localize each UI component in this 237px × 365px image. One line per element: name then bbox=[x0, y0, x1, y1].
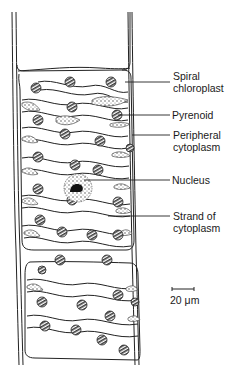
label-line: cytoplasm bbox=[173, 222, 220, 234]
label-line: Strand of bbox=[173, 210, 220, 222]
label-strand-of-cytoplasm: Strand of cytoplasm bbox=[173, 210, 220, 234]
label-line: Pyrenoid bbox=[172, 109, 213, 121]
label-peripheral-cytoplasm: Peripheral cytoplasm bbox=[173, 129, 221, 153]
label-line: Nucleus bbox=[172, 174, 210, 186]
scale-bar-label: 20 μm bbox=[170, 294, 199, 306]
label-pyrenoid: Pyrenoid bbox=[172, 109, 213, 121]
label-nucleus: Nucleus bbox=[172, 174, 210, 186]
label-spiral-chloroplast: Spiral chloroplast bbox=[173, 70, 224, 94]
scale-bar bbox=[172, 287, 194, 291]
label-line: cytoplasm bbox=[173, 141, 221, 153]
label-line: chloroplast bbox=[173, 82, 224, 94]
label-line: Peripheral bbox=[173, 129, 221, 141]
label-line: Spiral bbox=[173, 70, 224, 82]
nucleus-drawing bbox=[64, 174, 92, 202]
spirogyra-diagram: Spiral chloroplast Pyrenoid Peripheral c… bbox=[0, 0, 237, 365]
